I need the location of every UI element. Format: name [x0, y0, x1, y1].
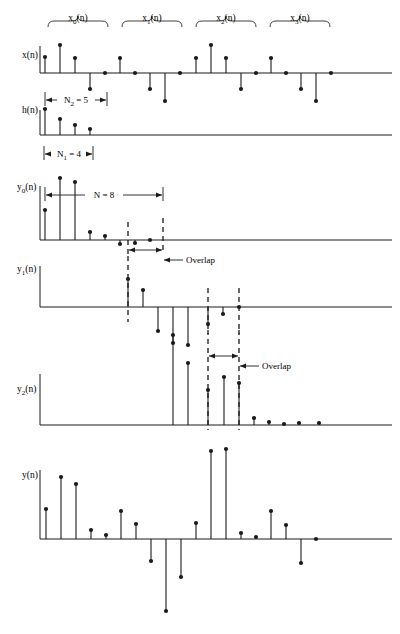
- stem-dot: [314, 537, 318, 541]
- measure-label-n2-measure: N2 = 5: [64, 95, 89, 108]
- stem-dot: [58, 117, 62, 121]
- row-y0-of-n: y0(n): [17, 176, 392, 246]
- stem-dot: [58, 176, 62, 180]
- row-y-of-n: y(n): [22, 447, 392, 613]
- row-h-of-n: h(n): [22, 105, 392, 135]
- stem-dot: [314, 99, 318, 103]
- stem-dot: [299, 561, 303, 565]
- overlap-add-figure: x0(n)x1(n)x2(n)x3(n) x(n)h(n)y0(n)y1(n)y…: [0, 0, 400, 634]
- stem-dot: [252, 416, 256, 420]
- stem-dot: [148, 238, 152, 242]
- stem-dot: [329, 71, 333, 75]
- stem-dot: [209, 449, 213, 453]
- stem-dot: [134, 522, 138, 526]
- row-label-x-of-n: x(n): [22, 50, 38, 61]
- brace-label-x1: x1(n): [142, 13, 161, 26]
- brace-label-x2: x2(n): [216, 13, 235, 26]
- stem-dot: [282, 422, 286, 426]
- brace-x3: x3(n): [270, 13, 330, 27]
- stem-dot: [178, 71, 182, 75]
- stem-dot: [299, 87, 303, 91]
- stem-dot: [221, 312, 225, 316]
- stem-dot: [44, 507, 48, 511]
- stem-dot: [297, 421, 301, 425]
- row-label-y2-of-n: y2(n): [17, 384, 36, 397]
- stem-dot: [317, 421, 321, 425]
- stem-dot: [73, 123, 77, 127]
- stem-dot: [149, 559, 153, 563]
- row-y2-of-n: y2(n): [17, 333, 392, 426]
- stem-dot: [156, 329, 160, 333]
- stem-dot: [194, 56, 198, 60]
- stems-h-of-n: [43, 107, 92, 135]
- stem-dot: [141, 288, 145, 292]
- brace-label-x0: x0(n): [68, 13, 87, 26]
- row-label-h-of-n: h(n): [22, 105, 38, 116]
- stem-dot: [254, 71, 258, 75]
- stem-dot: [118, 242, 122, 246]
- brace-x2: x2(n): [196, 13, 256, 27]
- segment-braces-group: x0(n)x1(n)x2(n)x3(n): [48, 13, 330, 27]
- stem-dot: [254, 535, 258, 539]
- row-label-y1-of-n: y1(n): [17, 264, 36, 277]
- length-measurements-group: N2 = 5N1 = 4N = 8: [44, 92, 163, 201]
- measure-label-n1-measure: N1 = 4: [57, 149, 82, 162]
- stem-dot: [222, 375, 226, 379]
- stem-dot: [224, 56, 228, 60]
- stem-dot: [43, 107, 47, 111]
- stems-y2-of-n: [171, 333, 321, 426]
- stem-dot: [284, 71, 288, 75]
- overlap-annotations-group: OverlapOverlap: [129, 250, 291, 371]
- row-label-y0-of-n: y0(n): [17, 182, 36, 195]
- stem-dot: [269, 509, 273, 513]
- measure-n1-measure: N1 = 4: [44, 146, 93, 162]
- stem-dot: [58, 43, 62, 47]
- stem-dot: [73, 180, 77, 184]
- stem-dot: [74, 482, 78, 486]
- stem-dot: [267, 420, 271, 424]
- stem-dot: [119, 509, 123, 513]
- stem-dot: [89, 528, 93, 532]
- stem-dot: [103, 234, 107, 238]
- row-y1-of-n: y1(n): [17, 264, 392, 347]
- stem-dot: [148, 87, 152, 91]
- signal-rows-group: x(n)h(n)y0(n)y1(n)y2(n)y(n): [17, 43, 392, 613]
- stem-dot: [59, 475, 63, 479]
- overlap-y0-label: Overlap: [186, 255, 215, 265]
- stem-dot: [133, 71, 137, 75]
- stem-dot: [239, 87, 243, 91]
- brace-x0: x0(n): [48, 13, 108, 27]
- row-label-y-of-n: y(n): [22, 470, 38, 481]
- stem-dot: [163, 99, 167, 103]
- stem-dot: [194, 521, 198, 525]
- measure-label-n-measure: N = 8: [94, 190, 115, 200]
- signal-diagram-canvas: x0(n)x1(n)x2(n)x3(n) x(n)h(n)y0(n)y1(n)y…: [0, 0, 400, 634]
- stem-dot: [186, 343, 190, 347]
- stem-dot: [43, 208, 47, 212]
- stem-dot: [118, 56, 122, 60]
- stems-y0-of-n: [43, 176, 152, 246]
- stem-dot: [43, 55, 47, 59]
- overlap-y1: Overlap: [209, 356, 291, 371]
- stems-y-of-n: [44, 447, 318, 613]
- overlap-y0: Overlap: [129, 250, 215, 265]
- stem-dot: [179, 575, 183, 579]
- stem-dot: [104, 533, 108, 537]
- stem-dot: [103, 71, 107, 75]
- measure-n-measure: N = 8: [45, 187, 163, 201]
- stem-dot: [88, 127, 92, 131]
- stem-dot: [186, 361, 190, 365]
- stem-dot: [269, 56, 273, 60]
- stem-dot: [164, 609, 168, 613]
- brace-x1: x1(n): [122, 13, 182, 27]
- stem-dot: [73, 56, 77, 60]
- stem-dot: [209, 43, 213, 47]
- stem-dot: [224, 447, 228, 451]
- brace-label-x3: x3(n): [290, 13, 309, 26]
- stem-dot: [171, 333, 175, 337]
- stem-dot: [88, 87, 92, 91]
- overlap-y1-label: Overlap: [262, 361, 291, 371]
- stem-dot: [239, 531, 243, 535]
- stem-dot: [284, 523, 288, 527]
- measure-n2-measure: N2 = 5: [45, 92, 107, 108]
